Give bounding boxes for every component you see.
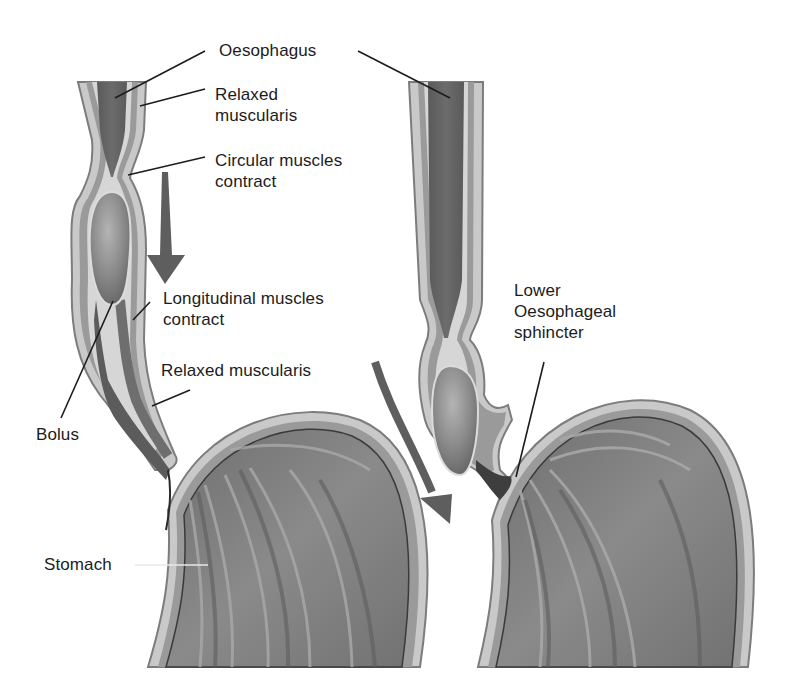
right-bolus-shape bbox=[432, 366, 478, 475]
label-line: Lower bbox=[514, 280, 616, 301]
leader-line-oesophagus bbox=[358, 51, 450, 98]
label-oesophagus: Oesophagus bbox=[219, 40, 316, 61]
label-circular-muscles-contract: Circular musclescontract bbox=[215, 150, 342, 192]
label-line: contract bbox=[163, 309, 324, 330]
label-line: Oesophageal bbox=[514, 301, 616, 322]
label-line: Bolus bbox=[36, 424, 79, 445]
label-relaxed-muscularis-top: Relaxedmuscularis bbox=[215, 84, 297, 126]
label-line: Relaxed bbox=[215, 84, 297, 105]
label-line: contract bbox=[215, 171, 342, 192]
label-line: Oesophagus bbox=[219, 40, 316, 61]
label-longitudinal-muscles-contract: Longitudinal musclescontract bbox=[163, 288, 324, 330]
downward-peristalsis-arrow bbox=[147, 172, 185, 284]
leader-line-relaxed-muscularis-top bbox=[140, 89, 205, 106]
leader-line-oesophagus bbox=[115, 51, 205, 98]
peristalsis-diagram: OesophagusRelaxedmuscularisCircular musc… bbox=[0, 0, 790, 699]
label-line: Relaxed muscularis bbox=[161, 360, 311, 381]
label-stomach: Stomach bbox=[44, 554, 112, 575]
label-line: sphincter bbox=[514, 322, 616, 343]
label-line: Circular muscles bbox=[215, 150, 342, 171]
right-oesophagus-stomach bbox=[409, 82, 754, 667]
label-relaxed-muscularis-bottom: Relaxed muscularis bbox=[161, 360, 311, 381]
diagram-illustration bbox=[0, 0, 790, 699]
label-line: Stomach bbox=[44, 554, 112, 575]
left-bolus-shape bbox=[90, 192, 131, 305]
label-lower-oesophageal-sphincter: LowerOesophagealsphincter bbox=[514, 280, 616, 343]
leader-line-relaxed-muscularis-bottom bbox=[152, 390, 190, 406]
label-bolus: Bolus bbox=[36, 424, 79, 445]
label-line: Longitudinal muscles bbox=[163, 288, 324, 309]
label-line: muscularis bbox=[215, 105, 297, 126]
